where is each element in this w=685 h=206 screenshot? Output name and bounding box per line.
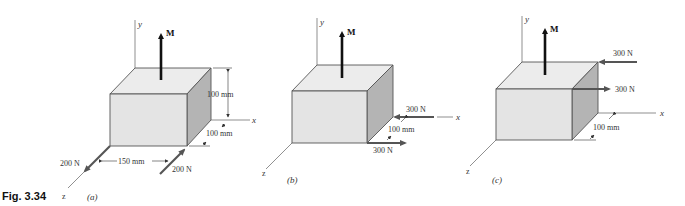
- depth-dim-tick-bottom: [387, 136, 391, 140]
- cube-front-face: [110, 94, 187, 146]
- cube-front-face: [496, 89, 572, 140]
- force-label-lower: 300 N: [615, 85, 635, 94]
- panel-caption: (a): [87, 192, 98, 202]
- force-label-upper: 300 N: [406, 105, 426, 114]
- z-axis-label: z: [466, 167, 470, 176]
- panel-c: y z x M 300 N 300 N 100 mm (c): [466, 14, 664, 185]
- y-axis-label: y: [319, 17, 324, 27]
- z-axis-label: z: [62, 192, 66, 201]
- depth-dim-tick-bottom: [203, 142, 206, 145]
- x-axis-label: x: [659, 108, 664, 118]
- panel-caption: (b): [287, 175, 298, 185]
- panel-a: y z x M 100 mm 100 mm 200 N 200 N 150 mm…: [60, 19, 256, 202]
- force-label-left: 200 N: [60, 159, 80, 168]
- depth-dim-tick-bottom: [590, 135, 594, 139]
- figure-canvas: y z x M 100 mm 100 mm 200 N 200 N 150 mm…: [0, 0, 685, 206]
- depth-dim-tick-top: [609, 115, 613, 119]
- panel-caption: (c): [492, 175, 502, 185]
- depth-dimension-label: 100 mm: [593, 123, 620, 132]
- moment-label: M: [550, 24, 559, 34]
- moment-label: M: [166, 28, 175, 38]
- width-dimension-label: 150 mm: [118, 157, 145, 166]
- z-axis: [266, 143, 292, 169]
- x-axis-label: x: [455, 112, 460, 122]
- depth-dimension-label: 100 mm: [206, 129, 233, 138]
- force-label-upper: 300 N: [613, 49, 633, 58]
- height-dimension-label: 100 mm: [207, 90, 234, 99]
- x-axis-label: x: [251, 115, 256, 125]
- cube-front-face: [292, 91, 367, 143]
- depth-dim-tick-top: [222, 124, 225, 127]
- y-axis-label: y: [137, 19, 142, 29]
- figure-label: Fig. 3.34: [2, 190, 47, 202]
- depth-dimension-label: 100 mm: [388, 125, 415, 134]
- y-axis-label: y: [524, 14, 529, 24]
- moment-label: M: [347, 27, 356, 37]
- force-arrow-left: [85, 146, 110, 171]
- panel-b: y z x M 300 N 300 N 100 mm (b): [262, 17, 460, 185]
- force-label-right: 200 N: [172, 165, 192, 174]
- z-axis-label: z: [262, 169, 266, 178]
- force-label-lower: 300 N: [373, 146, 393, 155]
- z-axis: [470, 140, 496, 166]
- depth-dim-tick-top: [401, 118, 405, 122]
